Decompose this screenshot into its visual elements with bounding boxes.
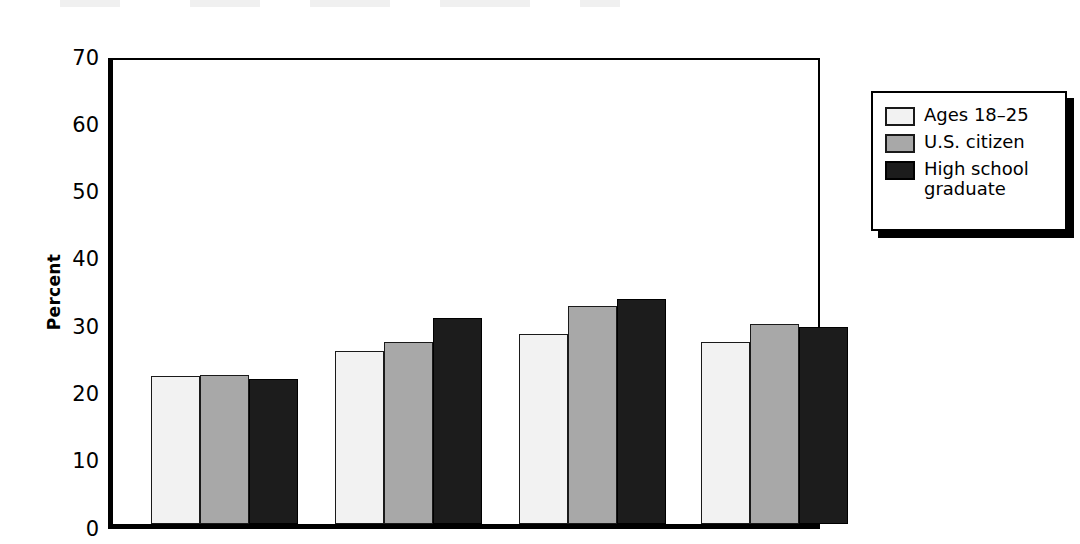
legend-item[interactable]: High school graduate [885,159,1055,199]
y-axis-tick-label: 20 [72,384,108,405]
y-axis: 706050403020100 [0,0,108,544]
bar-group [151,60,298,524]
y-axis-tick-label: 10 [72,451,108,472]
bar-us-citizen[interactable] [568,306,617,524]
legend-swatch-light [885,107,915,126]
bar-group [701,60,848,524]
legend-item[interactable]: Ages 18–25 [885,105,1055,126]
bar-ages-18-25[interactable] [519,334,568,524]
bar-us-citizen[interactable] [750,324,799,525]
bar-high-school-graduate[interactable] [433,318,482,524]
y-axis-tick-label: 0 [86,519,108,540]
cutoff-text-artifact [60,0,660,7]
legend-swatch-dark [885,161,915,180]
y-axis-tick-label: 60 [72,115,108,136]
bar-ages-18-25[interactable] [335,351,384,524]
y-axis-tick-label: 40 [72,249,108,270]
bar-group [519,60,666,524]
plot-area [108,58,820,529]
bar-ages-18-25[interactable] [151,376,200,524]
bar-chart-figure: Percent 706050403020100 Ages 18–25U.S. c… [0,0,1080,544]
bar-high-school-graduate[interactable] [249,379,298,524]
y-axis-tick-label: 50 [72,182,108,203]
chart-legend: Ages 18–25U.S. citizenHigh school gradua… [871,91,1067,231]
bars-layer [113,60,818,524]
legend-swatch-gray [885,134,915,153]
bar-group [335,60,482,524]
bar-us-citizen[interactable] [200,375,249,524]
bar-high-school-graduate[interactable] [799,327,848,524]
bar-ages-18-25[interactable] [701,342,750,524]
y-axis-tick-label: 30 [72,317,108,338]
legend-item-label: U.S. citizen [924,132,1025,152]
legend-item-label: Ages 18–25 [924,105,1029,125]
y-axis-tick-label: 70 [72,48,108,69]
legend-item-label: High school graduate [924,159,1029,199]
legend-item[interactable]: U.S. citizen [885,132,1055,153]
bar-high-school-graduate[interactable] [617,299,666,524]
bar-us-citizen[interactable] [384,342,433,524]
